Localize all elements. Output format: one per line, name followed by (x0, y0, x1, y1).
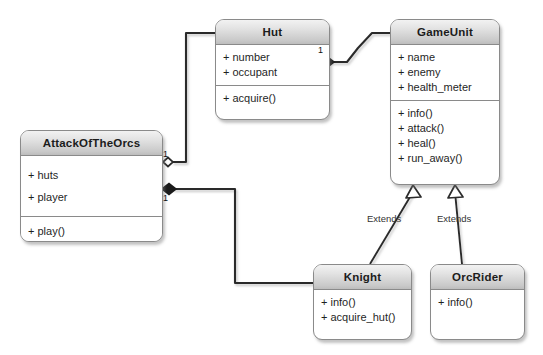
edge-hut-gameunit (330, 33, 390, 62)
method-row: + acquire_hut() (321, 310, 411, 325)
class-box-gameunit[interactable]: GameUnit + name + enemy + health_meter +… (390, 19, 500, 185)
edge-attackoftheorcs-hut (172, 33, 215, 162)
uml-diagram-canvas: Hut + number + occupant + acquire() Game… (0, 0, 543, 355)
edge-knight-gameunit (370, 192, 413, 264)
class-name-knight: Knight (314, 265, 411, 290)
class-attributes-attackoftheorcs: + huts + player (21, 156, 162, 216)
multiplicity-hut-gameunit: 1 (318, 46, 323, 55)
class-box-orcrider[interactable]: OrcRider + info() (430, 264, 525, 340)
class-box-hut[interactable]: Hut + number + occupant + acquire() (215, 19, 330, 120)
class-name-gameunit: GameUnit (391, 20, 499, 45)
edge-label-extends-knight: Extends (367, 214, 401, 224)
method-row: + info() (438, 295, 524, 310)
class-name-attackoftheorcs: AttackOfTheOrcs (21, 131, 162, 156)
method-row: + attack() (398, 121, 499, 136)
class-box-knight[interactable]: Knight + info() + acquire_hut() (313, 264, 412, 340)
class-methods-knight: + info() + acquire_hut() (314, 290, 411, 330)
class-methods-attackoftheorcs: + play() (21, 216, 162, 242)
method-row: + info() (398, 106, 499, 121)
edge-label-extends-orcrider: Extends (437, 214, 471, 224)
class-methods-orcrider: + info() (431, 290, 524, 315)
method-row: + info() (321, 295, 411, 310)
method-row: + heal() (398, 136, 499, 151)
attribute-row: + number (223, 50, 329, 65)
attribute-row: + enemy (398, 65, 499, 80)
class-attributes-gameunit: + name + enemy + health_meter (391, 45, 499, 100)
attribute-row: + occupant (223, 65, 329, 80)
class-attributes-hut: + number + occupant (216, 45, 329, 85)
method-row: + acquire() (223, 91, 329, 106)
class-methods-gameunit: + info() + attack() + heal() + run_away(… (391, 100, 499, 171)
edge-orcrider-gameunit (455, 192, 462, 264)
multiplicity-orcs-knight: 1 (163, 194, 168, 203)
inheritance-arrow-knight (406, 185, 421, 198)
edge-attackoftheorcs-knight (173, 189, 313, 283)
class-name-hut: Hut (216, 20, 329, 45)
class-name-orcrider: OrcRider (431, 265, 524, 290)
attribute-row: + huts (28, 164, 162, 186)
attribute-row: + player (28, 186, 162, 208)
attribute-row: + name (398, 50, 499, 65)
method-row: + play() (28, 224, 162, 239)
class-box-attackoftheorcs[interactable]: AttackOfTheOrcs + huts + player + play() (20, 130, 163, 242)
inheritance-arrow-orcrider (448, 185, 463, 198)
multiplicity-orcs-hut: 1 (163, 150, 168, 159)
class-methods-hut: + acquire() (216, 85, 329, 111)
method-row: + run_away() (398, 151, 499, 166)
attribute-row: + health_meter (398, 80, 499, 95)
